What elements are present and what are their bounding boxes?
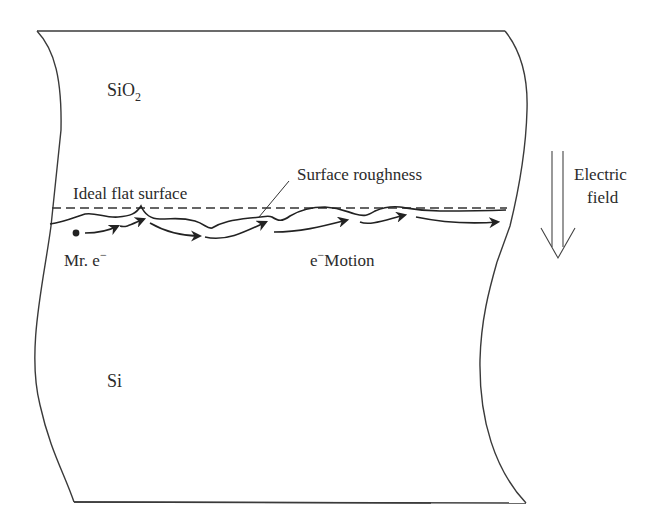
motion-label: e−Motion bbox=[310, 248, 375, 270]
field-label-line2: field bbox=[587, 188, 619, 207]
ideal-surface-label: Ideal flat surface bbox=[73, 184, 187, 203]
slab-outline bbox=[35, 31, 527, 503]
electron-label: Mr. e− bbox=[64, 248, 107, 270]
mos-interface-diagram: SiO2 Ideal flat surface Surface roughnes… bbox=[0, 0, 668, 524]
roughness-label: Surface roughness bbox=[297, 165, 422, 184]
electron-motion-arrows bbox=[85, 215, 498, 238]
substrate-label: Si bbox=[107, 371, 122, 391]
electric-field-arrow-icon bbox=[541, 151, 575, 258]
electron-dot bbox=[73, 230, 80, 237]
oxide-label: SiO2 bbox=[107, 80, 141, 104]
roughness-leader-line bbox=[259, 181, 289, 217]
surface-roughness-line bbox=[50, 206, 506, 228]
field-label-line1: Electric bbox=[574, 165, 627, 184]
